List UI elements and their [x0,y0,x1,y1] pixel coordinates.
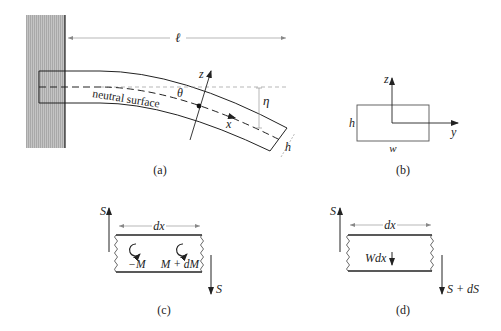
h-label-b: h [349,116,355,130]
moment-right-label: M + dM [160,258,201,270]
moment-right-icon [177,244,187,256]
z-label-a: z [198,67,204,81]
thickness-dimension-a: h [281,133,295,157]
moment-left-label: −M [128,258,147,270]
caption-b: (b) [396,163,410,177]
deflection-dimension: η [256,88,269,128]
cut-left [115,235,118,272]
caption-d: (d) [396,303,410,317]
moment-left-icon [130,244,140,256]
z-label-b: z [383,72,389,86]
shear-right-label-c: S [216,282,222,296]
bent-beam [39,71,287,151]
panel-c: S dx −M M + dM S (c) [100,204,222,317]
cut-right-d [431,235,434,271]
shear-right-label-d: S + dS [447,282,479,296]
cut-left-d [347,235,350,271]
x-label-a: x [225,117,232,131]
shear-left-label-c: S [100,204,106,218]
panel-b: z y h w (b) [349,72,458,177]
theta-label: θ [177,86,183,100]
load-label: Wdx [365,251,387,265]
length-dimension: ℓ [68,30,286,45]
h-label-a: h [285,140,291,154]
eta-label: η [263,93,269,108]
length-label: ℓ [175,30,181,45]
dx-label-d: dx [384,218,396,232]
cut-right [201,235,204,272]
panel-a: ℓ neutral surface θ z x η [26,15,295,177]
caption-a: (a) [153,163,166,177]
fixed-wall [26,15,65,148]
panel-d: S dx Wdx S + dS (d) [330,204,479,317]
reference-point [197,104,202,109]
dx-label-c: dx [153,219,165,233]
w-label-b: w [389,142,397,154]
caption-c: (c) [157,303,170,317]
y-label-b: y [450,125,457,139]
neutral-surface-label: neutral surface [92,87,161,109]
shear-left-label-d: S [330,204,336,218]
neutral-surface-line [39,87,280,140]
